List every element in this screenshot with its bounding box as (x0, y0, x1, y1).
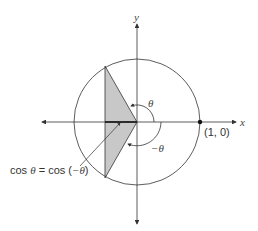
point-1-0 (198, 120, 202, 124)
point-label: (1, 0) (204, 126, 230, 138)
cos-annotation: cos θ = cos (−θ) (10, 164, 88, 176)
unit-circle-diagram: y x (1, 0) θ −θ cos θ = cos (−θ) (0, 0, 258, 231)
y-axis-label: y (133, 11, 139, 23)
theta-label: θ (148, 97, 154, 109)
x-axis-label: x (239, 116, 245, 128)
neg-theta-label: −θ (151, 142, 164, 154)
